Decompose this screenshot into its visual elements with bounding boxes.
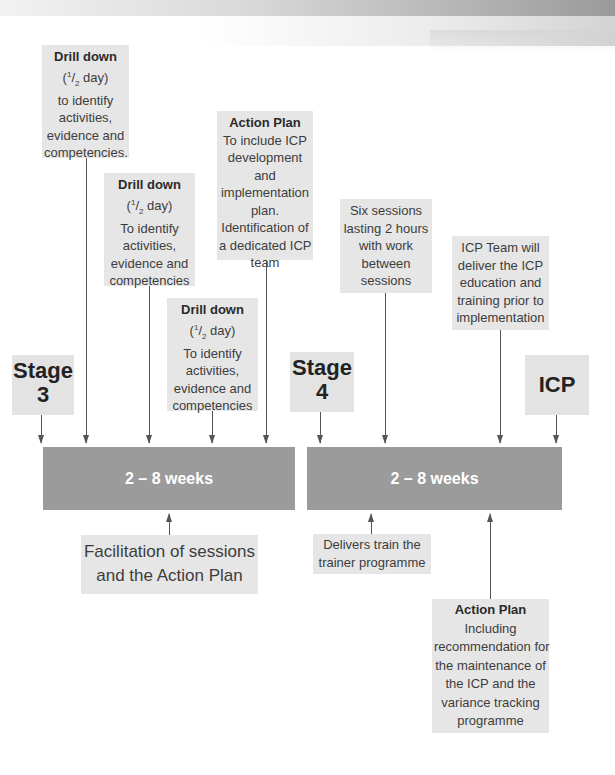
arrow-stage-3 bbox=[41, 415, 42, 443]
stage-number: 3 bbox=[12, 383, 74, 407]
decorative-top-gradient bbox=[0, 0, 615, 16]
arrow-icp-team bbox=[500, 330, 501, 443]
note-line: lasting 2 hours bbox=[342, 220, 430, 238]
stage-word: Stage bbox=[12, 359, 74, 383]
note-duration: (1/2 day) bbox=[169, 319, 256, 345]
note-line: evidence and bbox=[106, 255, 193, 273]
note-duration: (1/2 day) bbox=[44, 66, 127, 92]
note-title: Action Plan bbox=[434, 601, 547, 620]
decorative-top-fade-2 bbox=[430, 30, 615, 52]
note-title: Action Plan bbox=[219, 114, 311, 132]
note-line: evidence and bbox=[169, 380, 256, 398]
note-line: implementation bbox=[219, 184, 311, 202]
note-line: ICP Team will bbox=[454, 239, 547, 257]
note-line: plan. bbox=[219, 202, 311, 220]
note-line: deliver the ICP bbox=[454, 257, 547, 275]
stage-3-label: Stage 3 bbox=[12, 355, 74, 415]
timeline-bar-left: 2 – 8 weeks bbox=[43, 447, 295, 510]
note-line: education and bbox=[454, 274, 547, 292]
note-line: the ICP and the bbox=[434, 675, 547, 694]
note-icp-team: ICP Team will deliver the ICP education … bbox=[452, 236, 549, 330]
note-action-plan-1: Action Plan To include ICP development a… bbox=[217, 111, 313, 260]
note-line: Delivers train the bbox=[315, 536, 429, 554]
arrow-drill-down-2 bbox=[149, 286, 150, 443]
note-line: the maintenance of bbox=[434, 657, 547, 676]
arrow-drill-down-1 bbox=[86, 158, 87, 443]
icp-word: ICP bbox=[525, 373, 589, 397]
note-line: Six sessions bbox=[342, 202, 430, 220]
arrow-action-plan-1 bbox=[266, 260, 267, 443]
note-line: Including bbox=[434, 620, 547, 639]
timeline-bar-right: 2 – 8 weeks bbox=[307, 447, 562, 510]
note-line: trainer programme bbox=[315, 554, 429, 572]
note-line: Identification of bbox=[219, 219, 311, 237]
note-line: and the Action Plan bbox=[83, 564, 256, 588]
note-line: training prior to bbox=[454, 292, 547, 310]
note-drill-down-3: Drill down (1/2 day) To identify activit… bbox=[167, 298, 258, 411]
note-duration: (1/2 day) bbox=[106, 194, 193, 220]
stage-4-label: Stage 4 bbox=[290, 352, 354, 412]
note-line: and bbox=[219, 167, 311, 185]
note-drill-down-1: Drill down (1/2 day) to identify activit… bbox=[42, 45, 129, 158]
note-line: recommendation for bbox=[434, 638, 547, 657]
note-line: variance tracking bbox=[434, 694, 547, 713]
note-delivers: Delivers train the trainer programme bbox=[313, 534, 431, 574]
bar-duration-label: 2 – 8 weeks bbox=[125, 470, 213, 488]
note-line: To include ICP bbox=[219, 132, 311, 150]
note-title: Drill down bbox=[106, 176, 193, 194]
note-title: Drill down bbox=[44, 48, 127, 66]
arrow-facilitation bbox=[169, 514, 170, 536]
note-line: between bbox=[342, 255, 430, 273]
note-line: Facilitation of sessions bbox=[83, 540, 256, 564]
note-line: To identify bbox=[106, 220, 193, 238]
arrow-delivers bbox=[371, 514, 372, 535]
note-line: sessions bbox=[342, 272, 430, 290]
note-line: programme bbox=[434, 712, 547, 731]
note-line: To identify bbox=[169, 345, 256, 363]
arrow-drill-down-3 bbox=[212, 411, 213, 443]
note-line: team bbox=[219, 254, 311, 272]
stage-number: 4 bbox=[290, 380, 354, 404]
note-line: activities, bbox=[106, 237, 193, 255]
note-title: Drill down bbox=[169, 301, 256, 319]
note-line: activities, bbox=[44, 109, 127, 127]
note-line: a dedicated ICP bbox=[219, 237, 311, 255]
note-drill-down-2: Drill down (1/2 day) To identify activit… bbox=[104, 173, 195, 286]
note-facilitation: Facilitation of sessions and the Action … bbox=[81, 535, 258, 594]
note-line: evidence and bbox=[44, 127, 127, 145]
note-line: activities, bbox=[169, 362, 256, 380]
note-line: with work bbox=[342, 237, 430, 255]
note-line: implementation bbox=[454, 309, 547, 327]
note-six-sessions: Six sessions lasting 2 hours with work b… bbox=[340, 199, 432, 293]
arrow-action-plan-2 bbox=[490, 514, 491, 599]
arrow-icp bbox=[556, 415, 557, 443]
note-line: to identify bbox=[44, 92, 127, 110]
icp-label: ICP bbox=[525, 355, 589, 415]
bar-duration-label: 2 – 8 weeks bbox=[390, 470, 478, 488]
note-action-plan-2: Action Plan Including recommendation for… bbox=[432, 599, 549, 733]
note-line: development bbox=[219, 149, 311, 167]
arrow-six-sessions bbox=[385, 293, 386, 443]
arrow-stage-4 bbox=[320, 412, 321, 443]
stage-word: Stage bbox=[290, 356, 354, 380]
